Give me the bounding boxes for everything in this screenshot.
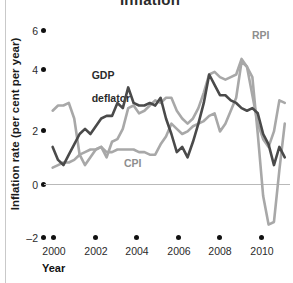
series-line-cpi (53, 62, 285, 168)
chart-figure: Inflation Inflation rate (per cent per y… (0, 0, 293, 283)
chart-plot-area (0, 0, 293, 283)
